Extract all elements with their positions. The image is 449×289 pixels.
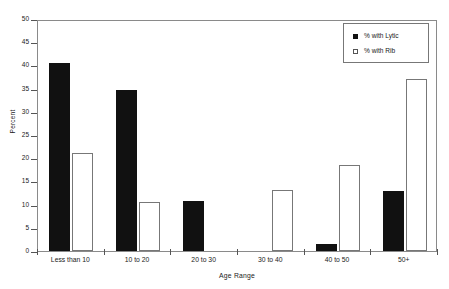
bar-lytic — [316, 244, 337, 251]
x-axis-tick — [437, 249, 438, 255]
y-axis-tick-label: 0 — [3, 248, 29, 255]
y-axis-tick-label-wrap: 35 — [0, 86, 29, 94]
legend-item-rib: % with Rib — [353, 46, 395, 56]
bar-lytic — [116, 90, 137, 251]
x-axis-tick — [37, 249, 38, 255]
bar-rib — [406, 79, 427, 251]
legend-swatch-filled-square-icon — [353, 34, 358, 39]
y-axis-tick-label-wrap: 45 — [0, 39, 29, 47]
bar-lytic — [183, 201, 204, 251]
x-axis-tick — [237, 249, 238, 255]
y-axis-tick-label-wrap: 30 — [0, 109, 29, 117]
y-axis-tick-label-wrap: 10 — [0, 202, 29, 210]
y-axis-tick-label: 5 — [3, 225, 29, 232]
y-axis-tick-label: 50 — [3, 16, 29, 23]
bar-rib — [339, 165, 360, 251]
y-axis-tick-label: 35 — [3, 86, 29, 93]
chart-legend: % with Lytic % with Rib — [343, 23, 429, 63]
bar-rib — [139, 202, 160, 251]
bar-rib — [272, 190, 293, 251]
legend-item-lytic: % with Lytic — [353, 31, 399, 41]
y-axis-tick-label: 10 — [3, 202, 29, 209]
y-axis-title: Percent — [9, 92, 16, 152]
y-axis-tick-label: 30 — [3, 109, 29, 116]
legend-label: % with Lytic — [364, 33, 399, 40]
bar-lytic — [49, 63, 70, 251]
bar-rib — [72, 153, 93, 251]
bar-chart: Percent 05101520253035404550 Less than 1… — [0, 0, 449, 289]
y-axis-tick-label: 20 — [3, 155, 29, 162]
y-axis-tick-label-wrap: 5 — [0, 225, 29, 233]
y-axis-tick-label-wrap: 0 — [0, 248, 29, 256]
y-axis-tick-label: 45 — [3, 39, 29, 46]
y-axis-tick-label-wrap: 20 — [0, 155, 29, 163]
bar-lytic — [383, 191, 404, 251]
x-axis-tick — [170, 249, 171, 255]
y-axis-tick-label: 15 — [3, 178, 29, 185]
x-axis-tick — [370, 249, 371, 255]
y-axis-tick-label: 40 — [3, 62, 29, 69]
legend-label: % with Rib — [364, 48, 395, 55]
y-axis-tick-label-wrap: 15 — [0, 178, 29, 186]
y-axis-tick-label: 25 — [3, 132, 29, 139]
y-axis-tick-label-wrap: 40 — [0, 62, 29, 70]
x-axis-tick — [104, 249, 105, 255]
legend-swatch-open-square-icon — [353, 49, 358, 54]
y-axis-tick-label-wrap: 25 — [0, 132, 29, 140]
x-axis-title: Age Range — [37, 272, 437, 279]
x-axis-tick — [304, 249, 305, 255]
y-axis-tick-label-wrap: 50 — [0, 16, 29, 24]
x-axis-tick-label: 50+ — [364, 257, 444, 264]
